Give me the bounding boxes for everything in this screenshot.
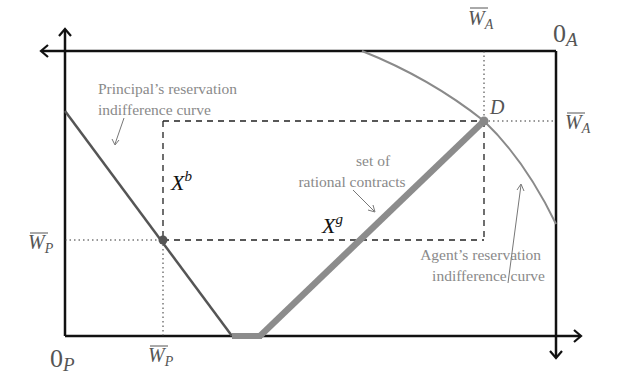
svg-text:WP: WP [28,231,54,256]
svg-text:WP: WP [148,344,174,369]
agent-indifference-curve [362,51,556,224]
xb-label: Xb [170,168,192,195]
arrowheads [41,29,581,358]
svg-text:WA: WA [565,111,591,136]
principal-indifference-curve [65,111,232,336]
point-xb [159,236,168,245]
origin-agent-label: 0A [553,19,578,50]
agent-curve-annotation: Agent’s reservation indifference curve [420,246,545,284]
rational-set-annotation: set of rational contracts [298,152,405,190]
point-d [480,117,489,126]
svg-text:WA: WA [468,7,494,32]
wp-left-label: WP [28,231,54,256]
wa-right-label: WA [565,111,591,136]
origin-principal-label: 0P [50,344,75,375]
wa-top-label: WA [468,7,494,32]
wp-bottom-label: WP [148,344,174,369]
edgeworth-box-diagram: 0P 0A WP WP WA WA D Xb Xg Principal’s re… [0,0,623,385]
point-d-label: D [489,96,505,118]
principal-curve-annotation: Principal’s reservation indifference cur… [98,80,241,118]
xg-label: Xg [321,211,343,238]
